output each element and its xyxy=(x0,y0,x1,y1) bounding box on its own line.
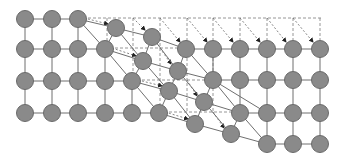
node-d7 xyxy=(187,116,204,133)
node-d8 xyxy=(223,126,240,143)
node-d2 xyxy=(44,105,61,122)
node-b1 xyxy=(17,41,34,58)
node-b3 xyxy=(70,41,87,58)
node-c2 xyxy=(44,73,61,90)
node-r2b xyxy=(205,41,222,58)
node-c7 xyxy=(196,94,213,111)
node-b6 xyxy=(170,63,187,80)
node-c1 xyxy=(17,73,34,90)
node-c6 xyxy=(161,83,178,100)
node-r3a xyxy=(205,72,222,89)
node-a3 xyxy=(70,11,87,28)
node-r2f xyxy=(312,41,329,58)
node-d1 xyxy=(17,105,34,122)
arrow-icon xyxy=(138,80,162,86)
node-r2e xyxy=(285,41,302,58)
node-d5 xyxy=(124,105,141,122)
lattice-diagram xyxy=(0,0,343,160)
node-a5 xyxy=(144,29,161,46)
node-c4 xyxy=(97,73,114,90)
node-r5b xyxy=(285,136,302,153)
node-r2c xyxy=(232,41,249,58)
arrow-icon xyxy=(213,18,233,42)
arrow-icon xyxy=(133,18,145,30)
node-r2d xyxy=(259,41,276,58)
node-b5 xyxy=(135,53,152,70)
node-d6 xyxy=(151,105,168,122)
node-r3e xyxy=(312,72,329,89)
node-r3d xyxy=(285,72,302,89)
node-c5 xyxy=(124,73,141,90)
node-b2 xyxy=(44,41,61,58)
node-r5a xyxy=(259,136,276,153)
node-r4d xyxy=(312,105,329,122)
node-r3c xyxy=(259,72,276,89)
node-d3 xyxy=(70,105,87,122)
node-a4 xyxy=(108,20,125,37)
node-r3b xyxy=(232,72,249,89)
node-r2a xyxy=(178,41,195,58)
arrow-icon xyxy=(240,18,260,42)
node-r4b xyxy=(259,105,276,122)
arrow-icon xyxy=(160,18,180,42)
arrow-icon xyxy=(267,18,286,42)
arrow-icon xyxy=(187,18,207,42)
node-r4a xyxy=(232,105,249,122)
node-d4 xyxy=(97,105,114,122)
node-a2 xyxy=(44,11,61,28)
node-r4c xyxy=(285,105,302,122)
node-c3 xyxy=(70,73,87,90)
node-b4 xyxy=(97,41,114,58)
node-r5c xyxy=(312,136,329,153)
node-a1 xyxy=(17,11,34,28)
arrow-icon xyxy=(293,18,313,42)
